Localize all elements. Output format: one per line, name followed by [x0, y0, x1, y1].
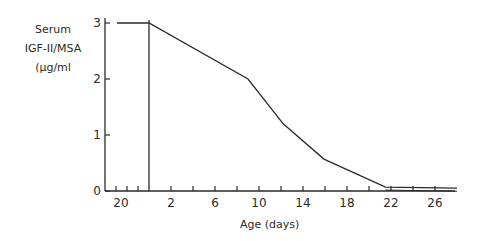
y-tick-label: 0	[93, 184, 101, 198]
x-tick-label: 18	[339, 196, 354, 210]
x-tick-label: 6	[211, 196, 219, 210]
y-tick-label: 2	[93, 72, 101, 86]
y-tick-label: 3	[93, 16, 101, 30]
chart-plot: 0123 20261014182226	[0, 0, 477, 241]
x-tick-label: 10	[251, 196, 266, 210]
x-tick-label: 22	[383, 196, 398, 210]
x-tick-label-fetal: 20	[113, 196, 128, 210]
y-tick-label: 1	[93, 128, 101, 142]
x-tick-label: 26	[427, 196, 442, 210]
data-line	[117, 23, 457, 188]
x-tick-label: 2	[167, 196, 175, 210]
x-axis-label: Age (days)	[240, 218, 299, 231]
x-tick-label: 14	[295, 196, 310, 210]
